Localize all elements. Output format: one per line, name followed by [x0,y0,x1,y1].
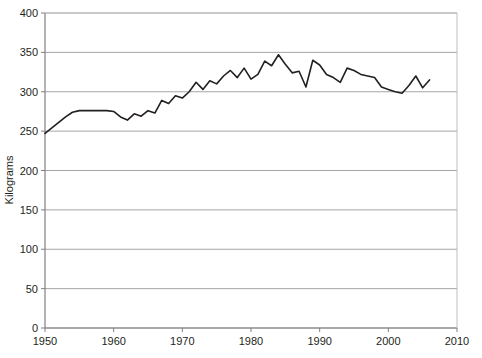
y-tick-label: 200 [20,165,38,177]
x-tick-label: 1950 [33,335,57,347]
y-tick-label: 100 [20,243,38,255]
y-axis-ticks: 050100150200250300350400 [20,7,45,334]
x-tick-label: 2010 [445,335,469,347]
x-axis-ticks: 1950196019701980199020002010 [33,328,469,347]
line-chart: 050100150200250300350400 195019601970198… [0,0,482,358]
y-tick-label: 350 [20,46,38,58]
y-tick-label: 0 [32,322,38,334]
chart-container: 050100150200250300350400 195019601970198… [0,0,482,358]
y-tick-label: 50 [26,283,38,295]
gridlines [45,13,457,328]
y-tick-label: 400 [20,7,38,19]
y-tick-label: 250 [20,125,38,137]
x-tick-label: 2000 [376,335,400,347]
x-tick-label: 1980 [239,335,263,347]
x-tick-label: 1970 [170,335,194,347]
y-axis-title: Kilograms [3,155,15,204]
x-tick-label: 1990 [307,335,331,347]
y-tick-label: 300 [20,86,38,98]
data-line-series [45,55,430,134]
x-tick-label: 1960 [101,335,125,347]
y-tick-label: 150 [20,204,38,216]
